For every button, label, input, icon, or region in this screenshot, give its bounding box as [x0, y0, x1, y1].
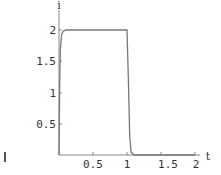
edge-mark — [4, 152, 6, 162]
y-tick-label: 1 — [49, 87, 56, 100]
y-tick-label: 0.5 — [36, 118, 56, 131]
series-line — [59, 30, 195, 155]
y-axis-label: i — [57, 0, 61, 12]
chart: 2 1.5 1 0.5 0.5 1 1.5 2 i t — [0, 0, 221, 175]
x-tick-label: 1 — [124, 158, 131, 171]
y-tick-label: 2 — [49, 24, 56, 37]
x-axis-label: t — [206, 150, 211, 163]
y-ticks: 2 1.5 1 0.5 — [36, 24, 62, 131]
x-tick-label: 2 — [193, 158, 200, 171]
x-tick-label: 0.5 — [83, 158, 103, 171]
x-tick-label: 1.5 — [158, 158, 178, 171]
y-tick-label: 1.5 — [36, 55, 56, 68]
